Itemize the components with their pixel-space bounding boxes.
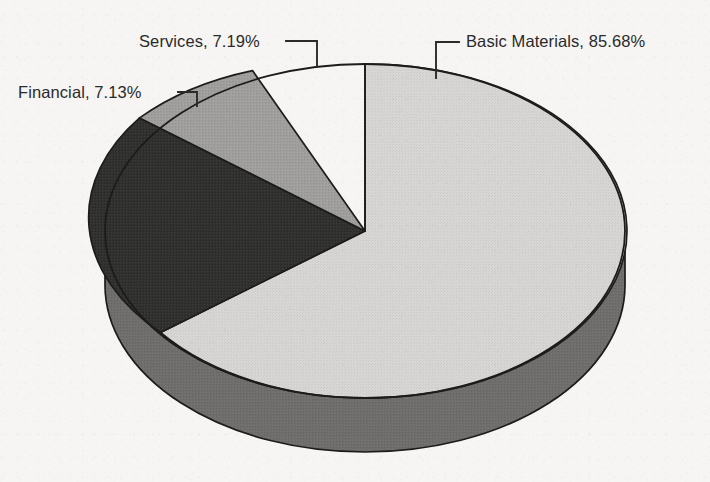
slice-label-basic-materials: Basic Materials, 85.68% (466, 33, 645, 50)
leader-line-services (286, 41, 317, 67)
slice-label-financial: Financial, 7.13% (18, 84, 142, 101)
slice-label-services: Services, 7.19% (139, 33, 260, 50)
pie-chart-figure: Services, 7.19% Financial, 7.13% Basic M… (0, 0, 710, 482)
pie-chart-canvas (0, 0, 710, 482)
